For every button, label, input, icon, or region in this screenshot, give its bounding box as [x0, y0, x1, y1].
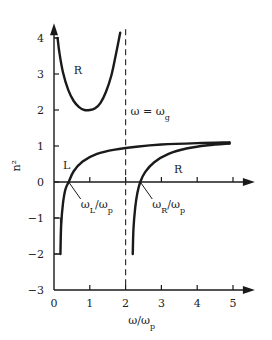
chart: 012345−3−2−101234 ω = ωgRLRωL/ωpωR/ωp ω/…: [0, 0, 272, 340]
x-tick-label: 2: [122, 297, 129, 310]
x-tick-label: 5: [230, 297, 237, 310]
omega-r-label-pointer: [140, 182, 152, 199]
omega-l-label-pointer: [69, 182, 81, 199]
x-tick-label: 1: [86, 297, 93, 310]
label-l: L: [63, 159, 71, 172]
annotations: ω = ωgRLRωL/ωpωR/ωp: [63, 64, 185, 215]
y-axis-arrow: [50, 23, 58, 35]
x-tick-label: 4: [194, 297, 201, 310]
omega-r-label: ωR/ωp: [152, 198, 185, 215]
label-r-upper: R: [174, 163, 183, 176]
curve-r-lower: [58, 33, 121, 111]
omega-r-label-sub2: p: [180, 206, 185, 215]
x-tick-label: 0: [51, 297, 58, 310]
x-tick-label: 3: [158, 297, 165, 310]
omega-g-label: ω = ωg: [131, 105, 170, 122]
y-tick-label: 0: [37, 176, 44, 189]
y-tick-label: 4: [37, 32, 44, 45]
y-tick-label: 1: [37, 140, 44, 153]
y-tick-label: 2: [37, 104, 44, 117]
y-tick-label: −2: [28, 248, 44, 261]
label-r-lower: R: [74, 64, 83, 77]
curve-r-upper: [133, 143, 230, 254]
zero-line-arrow: [243, 178, 255, 186]
y-tick-label: −1: [28, 212, 44, 225]
ticks: 012345−3−2−101234: [28, 32, 237, 310]
omega-l-label-tail: /ω: [95, 198, 108, 211]
x-axis-label-sub: p: [150, 322, 155, 331]
omega-r-label-tail: /ω: [167, 198, 180, 211]
omega-g-subscript: g: [165, 113, 170, 122]
y-tick-label: −3: [28, 284, 44, 297]
y-axis-label: n²: [10, 160, 23, 172]
omega-l-label: ωL/ωp: [81, 198, 113, 215]
omega-l-label-sub2: p: [108, 206, 113, 215]
y-tick-label: 3: [37, 68, 44, 81]
x-axis-arrow: [243, 286, 255, 294]
x-axis-label: ω/ωp: [128, 314, 155, 331]
